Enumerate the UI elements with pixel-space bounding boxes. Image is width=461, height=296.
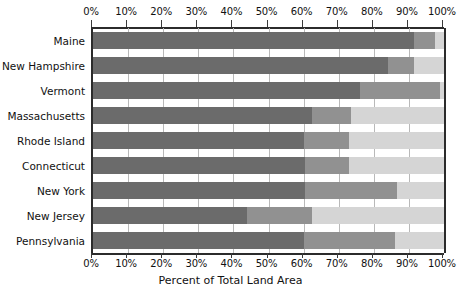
x-tick-label-top-90: 90% bbox=[396, 6, 418, 17]
x-tick-label-bottom-40: 40% bbox=[221, 258, 243, 269]
x-tick-label-bottom-30: 30% bbox=[185, 258, 207, 269]
bar-segment[interactable] bbox=[388, 57, 414, 74]
bar-segment[interactable] bbox=[351, 107, 444, 124]
x-tick-label-bottom-70: 70% bbox=[326, 258, 348, 269]
category-label-maine: Maine bbox=[0, 35, 85, 47]
bar-segment[interactable] bbox=[435, 32, 444, 49]
category-label-new-york: New York bbox=[0, 185, 85, 197]
bar-segment[interactable] bbox=[312, 207, 444, 224]
bar-segment[interactable] bbox=[93, 107, 312, 124]
bar-row[interactable] bbox=[93, 182, 444, 199]
bar-segment[interactable] bbox=[93, 182, 305, 199]
x-tick-label-bottom-60: 60% bbox=[291, 258, 313, 269]
category-label-massachusetts: Massachusetts bbox=[0, 110, 85, 122]
bar-segment[interactable] bbox=[397, 182, 444, 199]
category-label-new-jersey: New Jersey bbox=[0, 210, 85, 222]
bar-row[interactable] bbox=[93, 232, 444, 249]
x-axis-title: Percent of Total Land Area bbox=[0, 274, 461, 287]
bar-row[interactable] bbox=[93, 157, 444, 174]
x-tick-label-bottom-90: 90% bbox=[396, 258, 418, 269]
bar-segment[interactable] bbox=[395, 232, 444, 249]
x-tick-label-top-100: 100% bbox=[428, 6, 456, 17]
bar-segment[interactable] bbox=[349, 157, 444, 174]
bar-segment[interactable] bbox=[305, 182, 396, 199]
bar-row[interactable] bbox=[93, 207, 444, 224]
plot-bottom-border bbox=[91, 253, 444, 255]
x-tick-label-top-40: 40% bbox=[221, 6, 243, 17]
bar-segment[interactable] bbox=[414, 32, 435, 49]
x-tick-label-top-80: 80% bbox=[361, 6, 383, 17]
x-tick-label-bottom-100: 100% bbox=[428, 258, 456, 269]
bar-row[interactable] bbox=[93, 57, 444, 74]
x-tick-label-bottom-20: 20% bbox=[150, 258, 172, 269]
x-tick-label-top-60: 60% bbox=[291, 6, 313, 17]
bar-segment[interactable] bbox=[93, 207, 247, 224]
category-label-connecticut: Connecticut bbox=[0, 160, 85, 172]
category-label-pennsylvania: Pennsylvania bbox=[0, 235, 85, 247]
bar-segment[interactable] bbox=[312, 107, 351, 124]
bar-segment[interactable] bbox=[360, 82, 441, 99]
bar-segment[interactable] bbox=[440, 82, 444, 99]
plot-area bbox=[91, 28, 446, 253]
bar-segment[interactable] bbox=[414, 57, 444, 74]
bar-segment[interactable] bbox=[305, 157, 349, 174]
bar-segment[interactable] bbox=[247, 207, 312, 224]
bar-row[interactable] bbox=[93, 132, 444, 149]
bar-segment[interactable] bbox=[304, 132, 350, 149]
x-tick-label-top-0: 0% bbox=[83, 6, 98, 17]
bar-segment[interactable] bbox=[349, 132, 444, 149]
stacked-bar-chart: 0%10%20%30%40%50%60%70%80%90%100% MaineN… bbox=[0, 0, 461, 296]
bar-row[interactable] bbox=[93, 32, 444, 49]
x-tick-label-bottom-10: 10% bbox=[115, 258, 137, 269]
bar-segment[interactable] bbox=[93, 232, 304, 249]
x-tick-label-top-70: 70% bbox=[326, 6, 348, 17]
x-tick-label-bottom-80: 80% bbox=[361, 258, 383, 269]
bar-segment[interactable] bbox=[93, 82, 360, 99]
x-tick-label-bottom-50: 50% bbox=[256, 258, 278, 269]
category-label-new-hampshire: New Hampshire bbox=[0, 60, 85, 72]
x-tick-label-bottom-0: 0% bbox=[83, 258, 98, 269]
bar-segment[interactable] bbox=[304, 232, 395, 249]
category-label-rhode-island: Rhode Island bbox=[0, 135, 85, 147]
bar-segment[interactable] bbox=[93, 157, 305, 174]
category-label-vermont: Vermont bbox=[0, 85, 85, 97]
x-tick-label-top-30: 30% bbox=[185, 6, 207, 17]
x-tick-label-top-20: 20% bbox=[150, 6, 172, 17]
bar-segment[interactable] bbox=[93, 57, 388, 74]
x-tick-label-top-50: 50% bbox=[256, 6, 278, 17]
bar-row[interactable] bbox=[93, 82, 444, 99]
bar-segment[interactable] bbox=[93, 132, 304, 149]
bar-row[interactable] bbox=[93, 107, 444, 124]
bar-segment[interactable] bbox=[93, 32, 414, 49]
x-tick-label-top-10: 10% bbox=[115, 6, 137, 17]
